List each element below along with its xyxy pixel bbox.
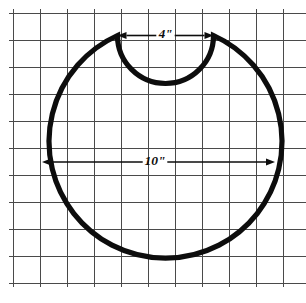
figure-container: 4"10" xyxy=(0,0,306,303)
dimension-label-notch-width: 4" xyxy=(158,26,173,41)
technical-drawing: 4"10" xyxy=(0,0,306,303)
dimension-label-circle-diameter: 10" xyxy=(145,153,166,168)
